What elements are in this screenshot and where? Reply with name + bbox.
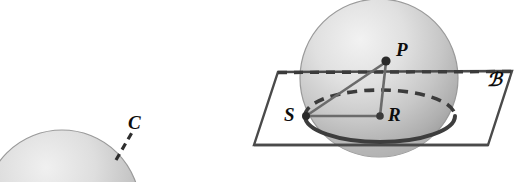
label-point-p: P xyxy=(396,40,408,59)
figure-canvas: P S R C ℬ xyxy=(0,0,529,182)
left-sphere-dashed-radius xyxy=(116,129,134,160)
label-point-s: S xyxy=(284,105,295,124)
label-point-r: R xyxy=(388,105,401,124)
label-plane-b: ℬ xyxy=(487,70,502,89)
point-s-dot xyxy=(302,112,310,120)
great-circle-dashed-line xyxy=(278,72,512,73)
geometry-diagram xyxy=(0,0,529,182)
point-p-dot xyxy=(381,56,390,65)
point-r-dot xyxy=(376,112,384,120)
left-sphere-group xyxy=(0,129,140,182)
label-point-c: C xyxy=(128,113,141,132)
